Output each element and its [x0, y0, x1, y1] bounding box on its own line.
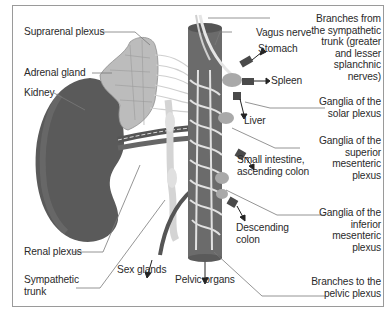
label-vagus-nerve: Vagus nerve [256, 27, 311, 39]
label-descending-colon: Descending colon [236, 222, 289, 245]
label-sympathetic-trunk: Sympathetic trunk [24, 274, 79, 297]
label-branches-pelvic: Branches to the pelvic plexus [311, 276, 381, 299]
label-small-intestine: Small intestine, ascending colon [237, 154, 309, 177]
label-liver: Liver [244, 115, 266, 127]
renal-plexus-illustration [118, 128, 192, 148]
kidney-illustration [36, 78, 125, 242]
label-renal-plexus: Renal plexus [24, 246, 82, 258]
label-stomach: Stomach [258, 43, 298, 55]
label-ganglia-inferior: Ganglia of the inferior mesenteric plexu… [319, 207, 381, 253]
label-adrenal-gland: Adrenal gland [24, 67, 86, 79]
label-spleen: Spleen [271, 75, 302, 87]
label-ganglia-superior: Ganglia of the superior mesenteric plexu… [319, 135, 381, 181]
label-kidney: Kidney [24, 87, 55, 99]
label-branches-sympathetic: Branches from the sympathetic trunk (gre… [311, 13, 381, 83]
label-suprarenal-plexus: Suprarenal plexus [24, 26, 104, 38]
label-ganglia-solar: Ganglia of the solar plexus [319, 96, 381, 119]
label-pelvic-organs: Pelvic organs [175, 274, 235, 286]
label-sex-glands: Sex glands [117, 264, 166, 276]
